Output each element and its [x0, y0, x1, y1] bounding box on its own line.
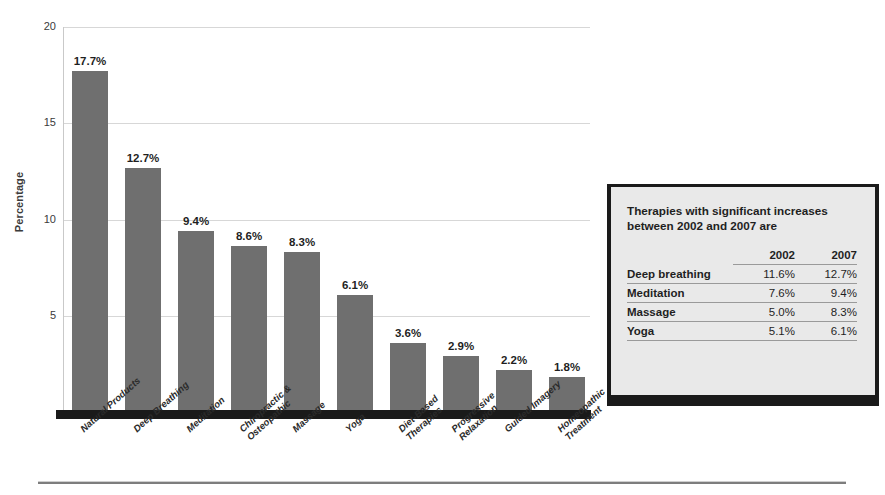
cell-2007-value: 8.3% — [795, 303, 857, 322]
table-row: Massage5.0%8.3% — [627, 303, 857, 322]
cell-2002-value: 5.1% — [733, 322, 795, 341]
bar — [390, 343, 426, 412]
bar-group: 8.3% — [284, 20, 320, 412]
cell-2007-value: 6.1% — [795, 322, 857, 341]
cell-therapy-name: Meditation — [627, 284, 733, 303]
bar-group: 8.6% — [231, 20, 267, 412]
figure-root: Percentage 2015105 17.7%12.7%9.4%8.6%8.3… — [0, 0, 885, 495]
cell-2002-value: 11.6% — [733, 265, 795, 284]
y-tick-label: 20 — [22, 20, 56, 32]
cell-2002-value: 5.0% — [733, 303, 795, 322]
cell-therapy-name: Yoga — [627, 322, 733, 341]
header-2007: 2007 — [795, 246, 857, 265]
header-2002: 2002 — [733, 246, 795, 265]
bar-group: 1.8% — [549, 20, 585, 412]
header-therapy — [627, 246, 733, 265]
bar-group: 2.2% — [496, 20, 532, 412]
bar-value-label: 1.8% — [535, 361, 599, 373]
cell-2002-value: 7.6% — [733, 284, 795, 303]
cell-2007-value: 12.7% — [795, 265, 857, 284]
table-body: Deep breathing11.6%12.7%Meditation7.6%9.… — [627, 265, 857, 341]
y-tick-label: 15 — [22, 116, 56, 128]
table-header-row: 2002 2007 — [627, 246, 857, 265]
bar-group: 9.4% — [178, 20, 214, 412]
y-tick-label: 5 — [22, 309, 56, 321]
bar-group: 6.1% — [337, 20, 373, 412]
table-row: Meditation7.6%9.4% — [627, 284, 857, 303]
cell-therapy-name: Massage — [627, 303, 733, 322]
significant-increases-panel: Therapies with significant increases bet… — [607, 184, 879, 406]
table-row: Deep breathing11.6%12.7% — [627, 265, 857, 284]
bar-value-label: 6.1% — [323, 279, 387, 291]
plot-area: 17.7%12.7%9.4%8.6%8.3%6.1%3.6%2.9%2.2%1.… — [63, 20, 593, 412]
bar-value-label: 12.7% — [111, 152, 175, 164]
bar-value-label: 9.4% — [164, 215, 228, 227]
cell-2007-value: 9.4% — [795, 284, 857, 303]
footer-divider — [38, 481, 846, 484]
bar-group: 12.7% — [125, 20, 161, 412]
y-tick-label: 10 — [22, 213, 56, 225]
bar-value-label: 2.9% — [429, 340, 493, 352]
bar — [125, 168, 161, 412]
bar — [72, 71, 108, 412]
comparison-table: 2002 2007 Deep breathing11.6%12.7%Medita… — [627, 246, 857, 341]
bar-value-label: 8.3% — [270, 236, 334, 248]
bar-group: 2.9% — [443, 20, 479, 412]
bar-group: 3.6% — [390, 20, 426, 412]
bar — [337, 295, 373, 412]
bar-value-label: 3.6% — [376, 327, 440, 339]
cell-therapy-name: Deep breathing — [627, 265, 733, 284]
y-axis-title: Percentage — [13, 157, 25, 247]
bar — [231, 246, 267, 412]
bar-chart: Percentage 2015105 17.7%12.7%9.4%8.6%8.3… — [0, 0, 600, 495]
bar-group: 17.7% — [72, 20, 108, 412]
panel-title: Therapies with significant increases bet… — [627, 203, 857, 233]
table-row: Yoga5.1%6.1% — [627, 322, 857, 341]
bar-value-label: 17.7% — [58, 55, 122, 67]
